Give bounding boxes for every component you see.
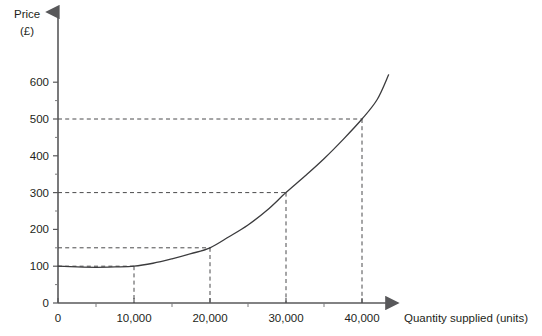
y-tick-label: 100 (30, 260, 49, 272)
supply-curve-chart: 0100200300400500600 010,00020,00030,0004… (0, 0, 542, 336)
x-axis-title: Quantity supplied (units) (404, 312, 528, 324)
x-tick-label: 20,000 (192, 312, 227, 324)
axes-group (58, 12, 398, 303)
y-tick-label: 600 (30, 76, 49, 88)
x-tick-label: 10,000 (116, 312, 151, 324)
supply-curve-path (58, 75, 389, 267)
x-axis-tick-labels: 010,00020,00030,00040,000 (55, 312, 380, 324)
y-axis-title-line2: (£) (20, 25, 34, 37)
chart-canvas: 0100200300400500600 010,00020,00030,0004… (0, 0, 542, 336)
x-tick-label: 30,000 (268, 312, 303, 324)
y-tick-label: 200 (30, 223, 49, 235)
y-axis-title-line1: Price (14, 8, 40, 20)
x-tick-label: 40,000 (344, 312, 379, 324)
x-tick-label: 0 (55, 312, 61, 324)
guide-lines (58, 119, 362, 303)
y-tick-label: 0 (43, 297, 49, 309)
y-tick-label: 400 (30, 150, 49, 162)
y-axis-tick-labels: 0100200300400500600 (30, 76, 49, 309)
y-tick-label: 500 (30, 113, 49, 125)
y-tick-label: 300 (30, 187, 49, 199)
